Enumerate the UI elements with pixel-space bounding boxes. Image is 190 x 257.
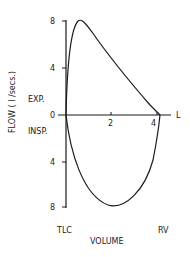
y-tick-label-8-top: 8	[50, 17, 55, 26]
tlc-label: TLC	[56, 226, 72, 235]
x-tick-label-2: 2	[108, 119, 113, 128]
inspiratory-curve	[66, 115, 160, 206]
flow-volume-chart: 8 4 0 4 8 2 4 L EXP. INSP. FLOW ( l /sec…	[0, 0, 190, 257]
insp-label: INSP.	[28, 127, 48, 136]
y-axis-title: FLOW ( l /secs.)	[8, 71, 17, 133]
y-tick-label-8-bottom: 8	[50, 203, 55, 212]
y-tick-label-0: 0	[50, 111, 55, 120]
y-tick-label-4-bottom: 4	[50, 158, 55, 167]
rv-label: RV	[158, 226, 169, 235]
y-tick-label-4-top: 4	[50, 64, 55, 73]
exp-label: EXP.	[28, 95, 45, 104]
expiratory-curve	[66, 20, 160, 115]
x-tick-label-4: 4	[151, 119, 156, 128]
x-unit-label: L	[176, 111, 181, 120]
x-axis-title: VOLUME	[90, 237, 124, 246]
